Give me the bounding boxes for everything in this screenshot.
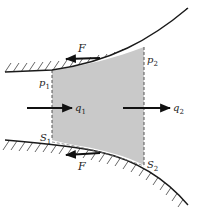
force-bottom-label: F (77, 160, 86, 173)
pressure-1-label: p1 (39, 77, 50, 91)
force-top-label: F (77, 42, 86, 55)
force-top-arrow (66, 58, 100, 59)
bottom-wall (5, 140, 188, 205)
pressure-2-label: p2 (147, 54, 158, 68)
flow-diagram: F p1 p2 q1 q2 S1 S2 F (0, 0, 199, 210)
flow-2-label: q2 (173, 102, 184, 116)
control-volume-region (52, 47, 144, 165)
